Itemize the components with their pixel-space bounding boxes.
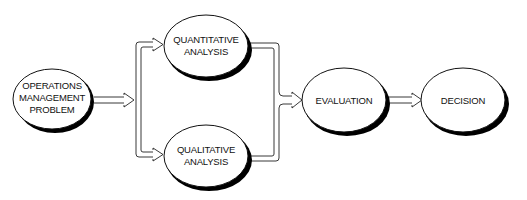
connector-split-to-analyses	[136, 38, 163, 161]
node-label-line: ANALYSIS	[184, 46, 228, 57]
node-label-line: MANAGEMENT	[19, 92, 85, 103]
node-label-line: ANALYSIS	[184, 156, 228, 167]
node-evaluation: EVALUATION	[302, 68, 390, 136]
node-qualitative-analysis: QUALITATIVE ANALYSIS	[164, 125, 252, 191]
node-quantitative-analysis: QUANTITATIVE ANALYSIS	[164, 15, 252, 81]
connector-evaluation-to-decision	[385, 93, 422, 107]
node-label-line: PROBLEM	[29, 104, 74, 115]
node-label-line: OPERATIONS	[22, 80, 82, 91]
connector-analyses-to-evaluation	[247, 43, 302, 161]
node-operations-management-problem: OPERATIONS MANAGEMENT PROBLEM	[13, 69, 94, 133]
node-decision: DECISION	[421, 68, 509, 136]
node-label-line: QUALITATIVE	[177, 144, 235, 155]
node-label-line: EVALUATION	[316, 95, 373, 106]
decision-process-diagram: OPERATIONS MANAGEMENT PROBLEM QUANTITATI…	[0, 0, 527, 200]
connector-problem-to-branch	[94, 93, 134, 107]
node-label-line: QUANTITATIVE	[173, 34, 238, 45]
node-label-line: DECISION	[441, 95, 486, 106]
